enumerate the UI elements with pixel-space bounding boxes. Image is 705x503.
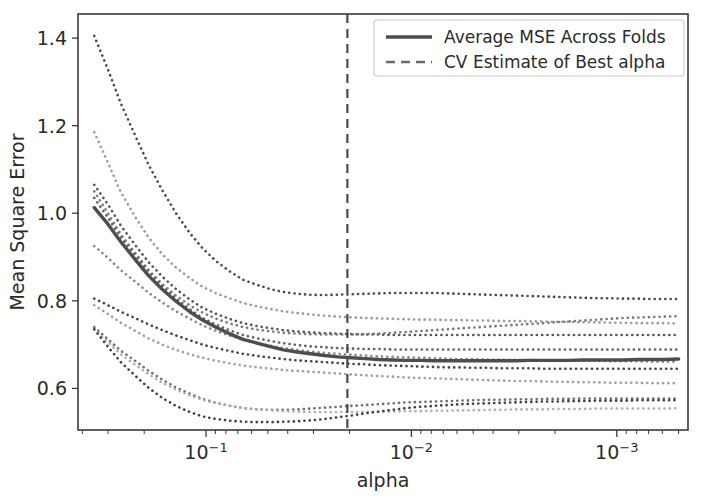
fold-curve	[94, 198, 678, 350]
fold-curves-group	[94, 36, 678, 422]
legend: Average MSE Across FoldsCV Estimate of B…	[374, 20, 684, 76]
y-axis-title: Mean Square Error	[6, 133, 28, 310]
fold-curve	[94, 185, 678, 335]
x-axis-title: alpha	[357, 469, 410, 491]
y-tick-label: 1.2	[37, 115, 67, 137]
fold-curve	[94, 191, 678, 334]
x-tick-label: 10−2	[390, 440, 433, 463]
x-tick-label: 10−1	[184, 440, 227, 463]
legend-label: Average MSE Across Folds	[444, 27, 666, 47]
axis-labels-group: alphaMean Square Error	[6, 133, 409, 491]
y-tick-label: 1.0	[37, 202, 67, 224]
axes-area: 0.60.81.01.21.410−110−210−3	[37, 14, 688, 463]
fold-curve	[94, 305, 678, 383]
y-tick-label: 1.4	[37, 27, 67, 49]
y-tick-label: 0.8	[37, 290, 67, 312]
x-tick-label: 10−3	[595, 440, 638, 463]
chart-canvas: 0.60.81.01.21.410−110−210−3 alphaMean Sq…	[0, 0, 705, 503]
fold-curve	[94, 329, 678, 412]
fold-curve	[94, 132, 678, 323]
legend-label: CV Estimate of Best alpha	[444, 52, 665, 72]
y-tick-label: 0.6	[37, 377, 67, 399]
matplotlib-figure: 0.60.81.01.21.410−110−210−3 alphaMean Sq…	[0, 0, 705, 503]
